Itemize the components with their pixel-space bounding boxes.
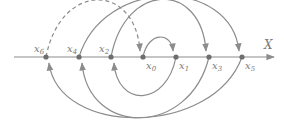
point-label-x0: x0	[146, 60, 157, 73]
axis-label: X	[263, 38, 273, 52]
arc-x2-to-x3	[111, 0, 206, 57]
arc-x0-to-x1	[143, 37, 173, 57]
point-label-x4: x4	[67, 43, 77, 56]
zigzag-iteration-diagram: X x6x4x2x0x1x3x5	[0, 0, 284, 123]
arc-x6-to-x0	[46, 0, 140, 57]
point-x1	[173, 54, 178, 59]
point-label-x1: x1	[179, 60, 189, 73]
point-x6	[43, 54, 48, 59]
point-label-x3: x3	[212, 60, 223, 73]
point-x2	[108, 54, 113, 59]
point-x0	[140, 54, 145, 59]
point-x4	[76, 54, 81, 59]
point-label-x2: x2	[99, 43, 110, 56]
point-label-x6: x6	[34, 43, 45, 56]
points-group: x6x4x2x0x1x3x5	[34, 43, 256, 73]
arc-x1-to-x2	[114, 57, 176, 96]
point-label-x5: x5	[245, 60, 256, 73]
diagram-canvas: X x6x4x2x0x1x3x5	[0, 0, 284, 123]
point-x3	[206, 54, 211, 59]
point-x5	[239, 54, 244, 59]
